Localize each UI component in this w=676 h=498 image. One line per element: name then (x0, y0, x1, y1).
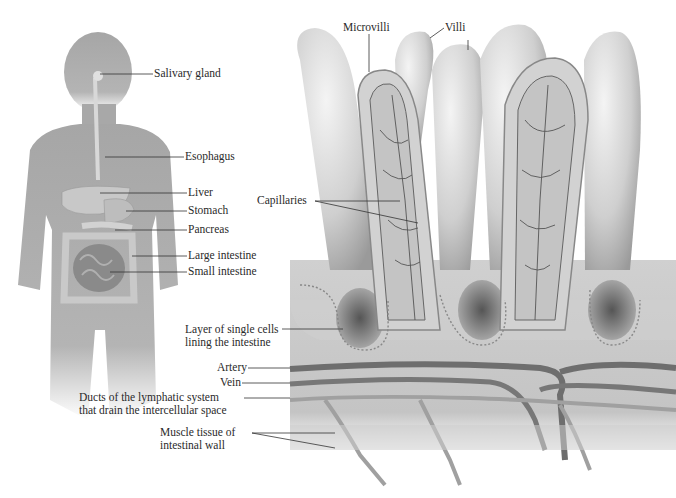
label-liver: Liver (188, 186, 213, 199)
label-cell-layer-line2: lining the intestine (185, 336, 271, 349)
human-silhouette (18, 32, 178, 420)
label-vein: Vein (200, 376, 241, 389)
label-large-intestine: Large intestine (188, 249, 256, 262)
label-salivary-gland: Salivary gland (154, 67, 221, 80)
label-capillaries: Capillaries (257, 194, 307, 207)
diagram-artwork (0, 0, 676, 498)
label-microvilli: Microvilli (343, 21, 390, 34)
label-stomach: Stomach (188, 204, 228, 217)
label-cell-layer-line1: Layer of single cells (185, 323, 279, 336)
label-pancreas: Pancreas (188, 223, 229, 236)
villi-illustration (290, 24, 676, 485)
label-esophagus: Esophagus (185, 150, 235, 163)
label-muscle-line2: intestinal wall (160, 439, 225, 452)
label-artery: Artery (200, 361, 247, 374)
label-small-intestine: Small intestine (188, 265, 257, 278)
label-muscle-line1: Muscle tissue of (160, 426, 235, 439)
label-villi: Villi (445, 21, 465, 34)
label-lymph-line2: that drain the intercellular space (79, 404, 227, 417)
label-lymph-line1: Ducts of the lymphatic system (79, 391, 219, 404)
diagram-stage: Salivary gland Esophagus Liver Stomach P… (0, 0, 676, 498)
